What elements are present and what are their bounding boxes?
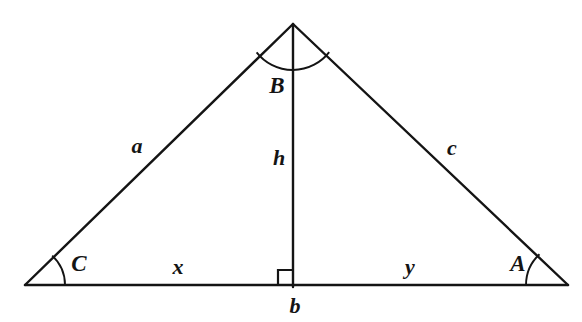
- label-side-c: c: [447, 137, 457, 159]
- label-segment-y: y: [405, 256, 415, 278]
- label-vertex-c: C: [71, 252, 86, 275]
- label-side-a: a: [132, 135, 143, 157]
- label-vertex-a: A: [510, 252, 525, 275]
- triangle-diagram-canvas: [0, 0, 582, 322]
- right-angle-marker-icon: [278, 270, 293, 285]
- label-side-b: b: [290, 295, 301, 317]
- label-altitude-h: h: [273, 147, 285, 169]
- label-segment-x: x: [173, 256, 184, 278]
- angle-arc-A: [526, 254, 540, 285]
- angle-arc-C: [52, 256, 65, 285]
- label-vertex-b: B: [269, 74, 284, 97]
- triangle-side-a: [25, 24, 293, 285]
- triangle-side-c: [293, 24, 568, 285]
- geometry-figure: a c b h x y A B C: [0, 0, 582, 322]
